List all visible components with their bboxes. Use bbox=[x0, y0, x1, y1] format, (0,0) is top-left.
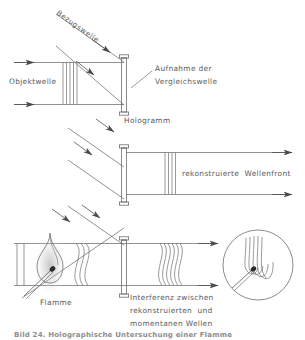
label-flamme: Flamme bbox=[40, 298, 72, 307]
label-aufnahme-line2: Vergleichswelle bbox=[155, 77, 217, 86]
label-hologramm: Hologramm bbox=[124, 116, 170, 125]
label-aufnahme-line1: Aufnahme der bbox=[155, 64, 212, 73]
label-interferenz-line3: momentanen Wellen bbox=[130, 319, 213, 328]
flame-glow bbox=[33, 230, 67, 294]
label-objektwelle: Objektwelle bbox=[9, 77, 56, 86]
label-rekonstruierte-wellenfront: rekonstruierte Wellenfront bbox=[182, 169, 291, 178]
holography-figure: Objektwelle Bezugswelle Aufnahme der Ver… bbox=[0, 0, 305, 340]
label-interferenz-line2: rekonstruierten und bbox=[130, 306, 213, 315]
figure-caption-text: Bild 24. Holographische Untersuchung ein… bbox=[0, 331, 305, 340]
diagram-canvas: Objektwelle Bezugswelle Aufnahme der Ver… bbox=[0, 0, 305, 340]
figure-caption-clipped: Bild 24. Holographische Untersuchung ein… bbox=[0, 331, 305, 340]
label-interferenz-line1: Interferenz zwischen bbox=[130, 293, 214, 302]
